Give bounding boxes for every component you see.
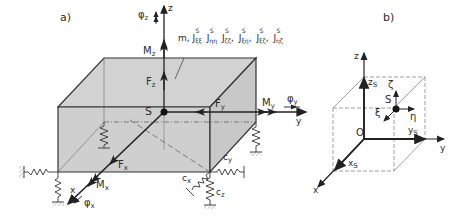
box-front-face [58, 107, 210, 172]
center-of-mass-dot [161, 109, 168, 116]
b-xs-label: xS [348, 159, 358, 170]
b-origin-label: O [356, 128, 364, 138]
panel-a-label: a) [60, 12, 71, 23]
b-ys-label: yS [408, 126, 418, 137]
phi-z-label: φz [138, 10, 148, 22]
z-axis-label: z [168, 4, 173, 13]
mass-inertia-label: m, JSξξ JSηη JSζζ, JSξη, JSξζ, JSηζ [178, 34, 285, 44]
xi-label: ξ [375, 108, 381, 118]
moment-z-label: Mz [143, 46, 155, 58]
spring-cz-label: cz [216, 188, 225, 199]
spring-cz [204, 172, 216, 209]
y-axis-label: y [296, 117, 301, 126]
b-zs-label: zS [368, 78, 377, 89]
eta-label: η [410, 112, 416, 122]
spring-cy [210, 166, 244, 178]
phi-y-label: φy [287, 94, 298, 106]
b-y-label: y [440, 144, 445, 153]
moment-x-label: Mx [96, 180, 109, 192]
force-z-label: Fz [146, 77, 155, 89]
phi-x-label: φx [84, 198, 95, 210]
force-x-label: Fx [118, 160, 128, 172]
b-x-label: x [313, 186, 318, 195]
spring-left-horizontal [19, 166, 58, 178]
force-y-label: Fy [215, 99, 225, 111]
spring-left-vertical [52, 172, 64, 206]
spring-cx-label: cx [182, 174, 191, 185]
b-z-label: z [354, 52, 359, 61]
zeta-label: ζ [388, 80, 393, 90]
center-label: S [145, 106, 152, 117]
x-axis-label: x [70, 186, 75, 195]
panel-b-label: b) [383, 12, 394, 23]
b-center-label: S [385, 95, 391, 105]
spring-cy-label: cy [223, 153, 232, 164]
moment-y-label: My [262, 98, 275, 110]
